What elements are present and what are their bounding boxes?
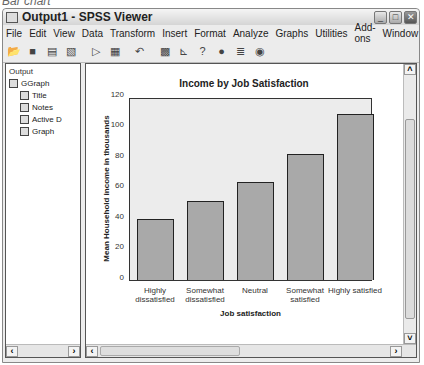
outline-item-ggraph[interactable]: GGraph [9, 79, 49, 88]
menu-edit[interactable]: Edit [29, 28, 46, 39]
menu-graphs[interactable]: Graphs [275, 28, 308, 39]
x-axis-label: Job satisfaction [129, 309, 372, 318]
menu-transform[interactable]: Transform [110, 28, 155, 39]
xtick-neutral: Neutral [227, 286, 283, 295]
viewer-vscrollbar[interactable]: ˄ ˅ [403, 64, 416, 344]
scroll-down-icon[interactable]: ˅ [404, 333, 416, 344]
variables-icon[interactable]: ? [196, 45, 209, 58]
window-title: Output1 - SPSS Viewer [22, 10, 374, 24]
dataset-icon [20, 115, 29, 124]
bar-highly-dissatisfied [137, 219, 174, 280]
menu-format[interactable]: Format [194, 28, 226, 39]
notes-icon [20, 103, 29, 112]
plot-area [129, 98, 372, 281]
vscroll-thumb[interactable] [405, 119, 415, 319]
scroll-left-icon[interactable]: ‹ [6, 346, 18, 357]
export-icon[interactable]: ▷ [89, 45, 102, 58]
title-icon [20, 91, 29, 100]
goto-data-icon[interactable]: ▦ [108, 45, 121, 58]
output-viewer-pane: Income by Job Satisfaction Mean Househol… [85, 63, 417, 358]
ytick-100: 100 [104, 120, 124, 129]
minimize-button[interactable]: _ [374, 11, 387, 24]
outline-hscrollbar[interactable]: ‹ › [6, 344, 80, 357]
chart-title: Income by Job Satisfaction [86, 78, 402, 89]
menu-file[interactable]: File [6, 28, 22, 39]
hscroll-thumb[interactable] [100, 346, 240, 356]
spss-viewer-window: Output1 - SPSS Viewer _ □ ✕ File Edit Vi… [2, 8, 420, 363]
menu-data[interactable]: Data [82, 28, 103, 39]
book-icon [9, 79, 18, 88]
dialog-recall-icon[interactable]: ▩ [158, 45, 171, 58]
toolbar: 📂 ■ ▤ ▧ ▷ ▦ ↶ ▩ ⊾ ? ● ≣ ◉ [3, 41, 419, 63]
ytick-120: 120 [104, 90, 124, 99]
bar-somewhat-dissatisfied [187, 201, 224, 280]
bar-highly-satisfied [337, 114, 374, 280]
scroll-up-icon[interactable]: ˄ [404, 64, 416, 75]
menu-view[interactable]: View [53, 28, 75, 39]
open-icon[interactable]: 📂 [7, 45, 20, 58]
save-icon[interactable]: ■ [26, 45, 39, 58]
outline-item-active-dataset[interactable]: Active D [20, 115, 62, 124]
undo-icon[interactable]: ↶ [133, 45, 146, 58]
viewer-hscrollbar[interactable]: ‹ › [86, 344, 416, 357]
print-preview-icon[interactable]: ▧ [64, 45, 77, 58]
xtick-somewhat-dissatisfied: Somewhat dissatisfied [177, 286, 233, 304]
menu-insert[interactable]: Insert [162, 28, 187, 39]
maximize-button[interactable]: □ [389, 11, 402, 24]
outline-item-graph[interactable]: Graph [20, 127, 54, 136]
menu-utilities[interactable]: Utilities [315, 28, 347, 39]
xtick-highly-satisfied: Highly satisfied [327, 286, 383, 295]
outline-item-notes[interactable]: Notes [20, 103, 53, 112]
ytick-0: 0 [104, 273, 124, 282]
xtick-highly-dissatisfied: Highly dissatisfied [127, 286, 183, 304]
scroll-right-icon[interactable]: › [68, 346, 80, 357]
menu-analyze[interactable]: Analyze [233, 28, 269, 39]
menu-window[interactable]: Window [383, 28, 419, 39]
ytick-20: 20 [104, 242, 124, 251]
bar-somewhat-satisfied [287, 154, 324, 280]
outline-root[interactable]: Output [9, 67, 33, 76]
ytick-60: 60 [104, 181, 124, 190]
outline-pane: Output GGraph Title Notes Active D Graph [5, 63, 81, 358]
outline-item-title[interactable]: Title [20, 91, 47, 100]
menu-bar: File Edit View Data Transform Insert For… [3, 25, 419, 41]
goto-case-icon[interactable]: ⊾ [177, 45, 190, 58]
xtick-somewhat-satisfied: Somewhat satisfied [277, 286, 333, 304]
insert-output-icon[interactable]: ≣ [234, 45, 247, 58]
graph-icon [20, 127, 29, 136]
menu-addons[interactable]: Add-ons [354, 22, 375, 44]
use-sets-icon[interactable]: ● [215, 45, 228, 58]
scroll-right-icon[interactable]: › [390, 346, 402, 357]
close-button[interactable]: ✕ [404, 11, 417, 24]
scroll-left-icon[interactable]: ‹ [86, 346, 98, 357]
figure-caption: Bar chart [2, 0, 51, 8]
bar-neutral [237, 182, 274, 280]
print-icon[interactable]: ▤ [45, 45, 58, 58]
ytick-40: 40 [104, 212, 124, 221]
ytick-80: 80 [104, 151, 124, 160]
app-icon [6, 12, 18, 23]
designate-window-icon[interactable]: ◉ [253, 45, 266, 58]
